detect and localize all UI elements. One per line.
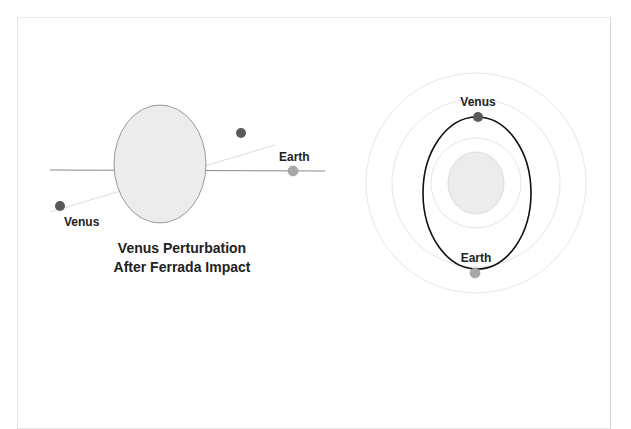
venus-label: Venus [64,215,100,229]
earth-label: Earth [279,150,310,164]
impactor-body [114,105,206,223]
earth-dot [470,268,480,278]
venus-label: Venus [460,95,496,109]
diagram-title-line2: After Ferrada Impact [114,259,251,275]
venus-dot-perturbed [236,128,246,138]
venus-dot [473,112,483,122]
earth-dot [288,166,298,176]
diagram-title-line1: Venus Perturbation [118,240,246,256]
venus-dot [55,201,65,211]
right-diagram: Venus Earth [366,73,586,293]
left-diagram: Venus Earth Venus Perturbation After Fer… [50,105,325,275]
earth-label: Earth [461,251,492,265]
central-body [448,152,504,214]
